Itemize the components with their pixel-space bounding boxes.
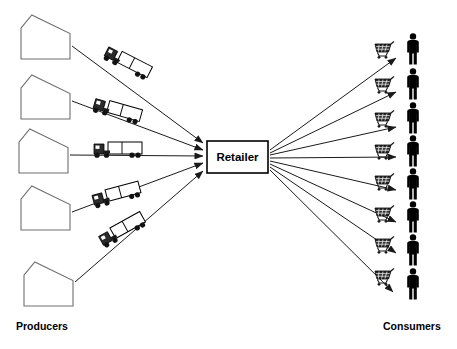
cart-wheel-right <box>385 91 388 94</box>
person-body <box>409 210 417 222</box>
truck-1 <box>103 45 153 81</box>
consumer-6[interactable] <box>407 201 419 232</box>
person-leg-left <box>409 254 412 266</box>
cart-handle <box>391 111 394 114</box>
producer-1[interactable] <box>21 15 70 59</box>
cart-wheel-right <box>385 251 388 254</box>
person-leg-right <box>414 155 417 167</box>
producer-5[interactable] <box>24 262 73 306</box>
person-body <box>409 42 417 54</box>
cart-wheel-left <box>378 220 381 223</box>
producer-2[interactable] <box>21 75 70 119</box>
person-head <box>410 102 416 108</box>
truck-wheel-4 <box>135 153 140 158</box>
person-body <box>409 111 417 123</box>
truck-wheel-3 <box>129 153 134 158</box>
person-body <box>409 277 417 289</box>
person-head <box>410 33 416 39</box>
cart-frame <box>377 53 387 56</box>
consumer-group <box>407 33 419 299</box>
truck-window <box>96 146 100 149</box>
cart-2 <box>375 77 394 94</box>
cart-wheel-left <box>378 283 381 286</box>
cart-3 <box>375 111 394 128</box>
supply-chain-diagram: Retailer Producers Consumers <box>0 0 457 349</box>
truck-wheel-2 <box>104 153 109 158</box>
consumer-2[interactable] <box>407 68 419 99</box>
consumer-7[interactable] <box>407 234 419 265</box>
truck-trailer <box>105 181 141 201</box>
consumers-label: Consumers <box>383 320 441 332</box>
person-leg-left <box>409 155 412 167</box>
cart-wheel-right <box>385 56 388 59</box>
outbound-arrow-5 <box>270 161 396 190</box>
consumer-8[interactable] <box>407 268 419 299</box>
cart-wheel-left <box>378 125 381 128</box>
producer-4[interactable] <box>21 186 70 230</box>
cart-frame <box>377 88 387 91</box>
truck-trailer <box>108 142 142 154</box>
person-head <box>410 168 416 174</box>
cart-handle <box>391 143 394 146</box>
outbound-arrow-2 <box>270 92 396 153</box>
producer-group <box>19 15 73 306</box>
cart-frame <box>377 248 387 251</box>
cart-wheel-right <box>385 157 388 160</box>
supply-chain-diagram-canvas: Retailer Producers Consumers <box>0 0 457 349</box>
person-leg-left <box>409 221 412 233</box>
producer-3[interactable] <box>19 129 68 173</box>
consumer-5[interactable] <box>407 168 419 199</box>
cart-handle <box>391 42 394 45</box>
person-head <box>410 268 416 274</box>
person-leg-right <box>414 254 417 266</box>
cart-handle <box>391 174 394 177</box>
person-leg-right <box>414 53 417 65</box>
person-head <box>410 68 416 74</box>
consumer-4[interactable] <box>407 135 419 166</box>
cart-wheel-right <box>385 220 388 223</box>
truck-trailer <box>117 51 153 77</box>
outbound-arrow-8 <box>270 170 393 292</box>
cart-handle <box>391 269 394 272</box>
outbound-arrow-group <box>270 58 396 292</box>
consumer-1[interactable] <box>407 33 419 64</box>
consumer-3[interactable] <box>407 102 419 133</box>
person-leg-right <box>414 122 417 134</box>
truck-group <box>91 45 152 248</box>
cart-wheel-left <box>378 188 381 191</box>
cart-wheel-right <box>385 283 388 286</box>
cart-handle <box>391 77 394 80</box>
outbound-arrow-4 <box>270 157 396 158</box>
producers-label: Producers <box>16 320 68 332</box>
cart-7 <box>375 237 394 254</box>
person-body <box>409 77 417 89</box>
truck-5 <box>98 211 148 248</box>
person-leg-right <box>414 221 417 233</box>
inbound-arrow-group <box>70 46 203 282</box>
truck-4 <box>91 181 141 209</box>
person-leg-right <box>414 88 417 100</box>
person-head <box>410 234 416 240</box>
cart-wheel-left <box>378 157 381 160</box>
person-leg-left <box>409 88 412 100</box>
cart-wheel-left <box>378 91 381 94</box>
cart-handle <box>391 237 394 240</box>
cart-wheel-left <box>378 251 381 254</box>
cart-handle <box>391 206 394 209</box>
person-body <box>409 243 417 255</box>
cart-5 <box>375 174 394 191</box>
cart-frame <box>377 154 387 157</box>
outbound-arrow-1 <box>270 58 396 150</box>
cart-wheel-right <box>385 188 388 191</box>
person-leg-left <box>409 188 412 200</box>
person-body <box>409 144 417 156</box>
retailer-node[interactable]: Retailer <box>207 141 268 173</box>
person-head <box>410 135 416 141</box>
truck-trailer <box>107 101 143 122</box>
cart-8 <box>375 269 394 286</box>
person-head <box>410 201 416 207</box>
person-leg-right <box>414 188 417 200</box>
person-leg-right <box>414 288 417 300</box>
cart-group <box>375 42 394 286</box>
cart-wheel-right <box>385 125 388 128</box>
